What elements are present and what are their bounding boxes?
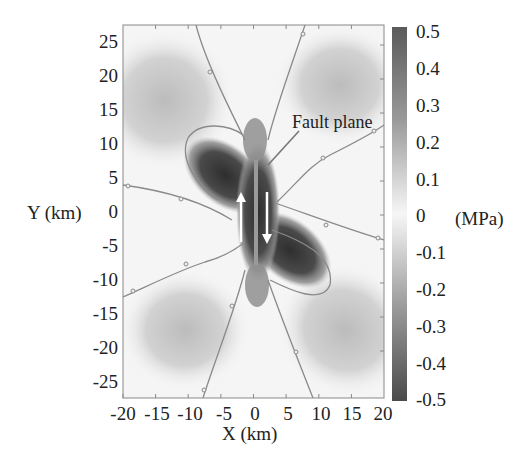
y-tick: 0 <box>109 202 119 222</box>
colorbar-unit-label: (MPa) <box>455 208 504 230</box>
x-tick: 20 <box>374 404 393 424</box>
y-tick: 20 <box>99 66 118 86</box>
x-tick: 15 <box>343 404 362 424</box>
x-tick: 10 <box>312 404 331 424</box>
y-tick: -10 <box>93 270 118 290</box>
colorbar-tick: -0.2 <box>416 280 446 300</box>
colorbar-tick: 0.1 <box>416 170 440 190</box>
x-tick: -20 <box>110 404 135 424</box>
colorbar-tick: 0 <box>416 206 426 226</box>
colorbar-tick: 0.3 <box>416 96 440 116</box>
x-tick: -5 <box>216 404 232 424</box>
y-tick: -25 <box>93 372 118 392</box>
x-tick: -10 <box>177 404 202 424</box>
x-tick: 0 <box>250 404 260 424</box>
colorbar-tick: -0.5 <box>416 390 446 410</box>
y-axis-label: Y (km) <box>27 202 82 224</box>
y-tick: -15 <box>93 304 118 324</box>
colorbar-tick: -0.1 <box>416 243 446 263</box>
colorbar <box>392 27 407 401</box>
stress-map-plot <box>0 0 532 471</box>
colorbar-tick: -0.4 <box>416 354 446 374</box>
y-tick: 15 <box>99 100 118 120</box>
colorbar-tick: 0.4 <box>416 59 440 79</box>
x-tick: 5 <box>283 404 293 424</box>
y-tick: 25 <box>99 32 118 52</box>
y-tick: -20 <box>93 338 118 358</box>
y-tick: -5 <box>102 236 118 256</box>
fault-plane-label: Fault plane <box>292 112 372 133</box>
x-axis-label: X (km) <box>222 423 277 445</box>
colorbar-tick: 0.2 <box>416 133 440 153</box>
x-tick: -15 <box>144 404 169 424</box>
colorbar-tick: 0.5 <box>416 22 440 42</box>
colorbar-tick: -0.3 <box>416 317 446 337</box>
y-tick: 5 <box>109 168 119 188</box>
y-tick: 10 <box>99 134 118 154</box>
